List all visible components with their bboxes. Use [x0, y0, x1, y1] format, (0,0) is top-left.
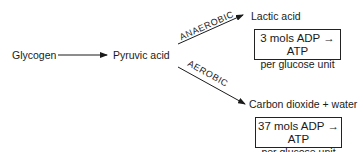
anaerobic-yield-line1: 3 mols ADP → ATP — [255, 32, 340, 58]
anaerobic-yield-line2: per glucose unit — [255, 58, 340, 71]
aerobic-yield-line2: per glucose unit — [256, 146, 341, 152]
aerobic-yield-box: 37 mols ADP → ATP per glucose unit — [255, 117, 342, 148]
node-glycogen: Glycogen — [12, 50, 56, 61]
anaerobic-yield-box: 3 mols ADP → ATP per glucose unit — [254, 29, 341, 60]
node-pyruvic-acid: Pyruvic acid — [113, 50, 170, 61]
node-carbon-dioxide-water: Carbon dioxide + water — [249, 99, 357, 110]
aerobic-yield-line1: 37 mols ADP → ATP — [256, 120, 341, 146]
node-lactic-acid: Lactic acid — [251, 11, 301, 22]
